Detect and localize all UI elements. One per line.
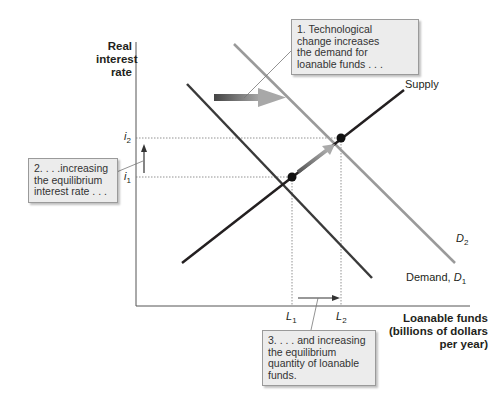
supply-label: Supply xyxy=(405,78,439,90)
callout-technological-change: 1. Technological change increases the de… xyxy=(291,19,419,75)
y-axis-title: Real interest rate xyxy=(96,40,132,79)
callout-connectors xyxy=(107,50,318,330)
demand-d1-label: Demand, D1 xyxy=(406,271,466,286)
demand-curve-d1 xyxy=(187,84,372,278)
equilibrium-point-e2 xyxy=(337,134,346,143)
quantity-right-arrow-icon xyxy=(298,295,340,301)
callout-interest-rate: 2. . . .increasing the equilibrium inter… xyxy=(28,158,118,203)
x-tick-l2: L2 xyxy=(336,310,347,325)
demand-d2-label: D2 xyxy=(456,232,468,247)
interest-rate-up-arrow-icon xyxy=(141,144,147,173)
equilibrium-movement-arrow-icon xyxy=(298,144,335,172)
y-tick-i1: i1 xyxy=(124,170,131,185)
x-tick-l1: L1 xyxy=(286,310,297,325)
x-axis-title: Loanable funds (billions of dollars per … xyxy=(360,312,488,351)
equilibrium-point-e1 xyxy=(288,173,297,182)
demand-curve-d2 xyxy=(234,44,455,263)
callout-quantity: 3. . . . and increasing the equilibrium … xyxy=(262,330,376,386)
demand-shift-arrow-icon xyxy=(214,88,286,107)
y-tick-i2: i2 xyxy=(124,130,131,145)
